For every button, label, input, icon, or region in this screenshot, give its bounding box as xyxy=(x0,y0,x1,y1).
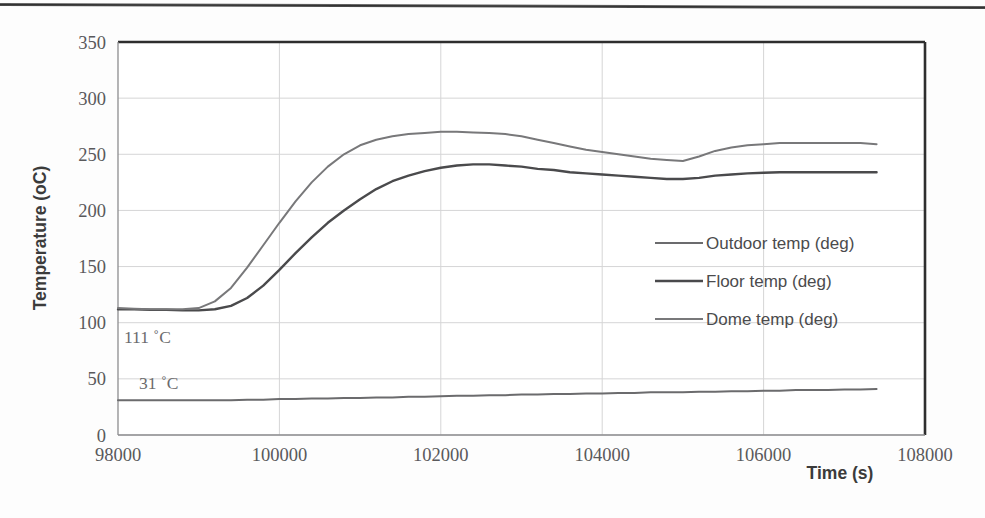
x-axis-tick-labels: 98000100000102000104000106000108000 xyxy=(95,445,953,465)
chart-figure: 050100150200250300350 980001000001020001… xyxy=(0,0,985,518)
y-tick-label-250: 250 xyxy=(78,145,106,165)
x-tick-label-98000: 98000 xyxy=(95,445,141,465)
legend-label-1: Floor temp (deg) xyxy=(706,272,832,291)
legend-label-2: Dome temp (deg) xyxy=(706,310,838,329)
y-tick-label-350: 350 xyxy=(78,33,106,53)
annotation-0: 111 ˚C xyxy=(124,327,171,347)
x-tick-label-102000: 102000 xyxy=(413,445,469,465)
y-axis-title: Temperature (oC) xyxy=(30,166,50,311)
y-tick-label-0: 0 xyxy=(97,426,106,446)
x-axis-title: Time (s) xyxy=(807,463,874,483)
y-tick-label-100: 100 xyxy=(78,313,106,333)
x-tick-label-104000: 104000 xyxy=(574,445,630,465)
y-tick-label-300: 300 xyxy=(78,89,106,109)
x-tick-label-106000: 106000 xyxy=(736,445,792,465)
x-tick-label-100000: 100000 xyxy=(252,445,308,465)
y-tick-label-150: 150 xyxy=(78,257,106,277)
legend-label-0: Outdoor temp (deg) xyxy=(706,234,854,253)
y-tick-label-50: 50 xyxy=(88,369,107,389)
annotation-1: 31 ˚C xyxy=(139,373,178,393)
y-axis-tick-labels: 050100150200250300350 xyxy=(78,33,106,446)
temperature-time-line-chart: 050100150200250300350 980001000001020001… xyxy=(0,0,985,518)
y-tick-label-200: 200 xyxy=(78,201,106,221)
x-tick-label-108000: 108000 xyxy=(897,445,953,465)
